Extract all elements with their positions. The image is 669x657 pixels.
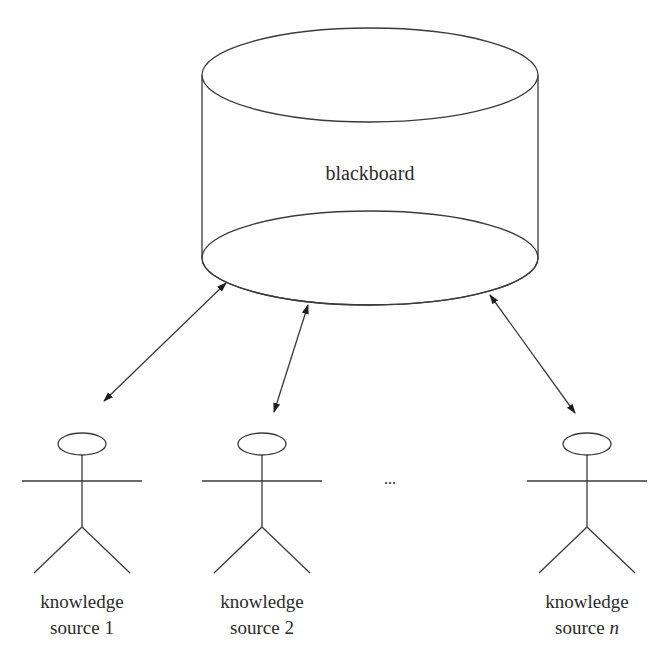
- knowledge-source-n: knowledge source n: [527, 433, 647, 638]
- ellipsis: ...: [384, 470, 396, 487]
- knowledge-source-label-line2: source 1: [50, 617, 114, 638]
- knowledge-source-label-line2: source n: [555, 617, 619, 638]
- knowledge-source-label-line1: knowledge: [40, 591, 123, 612]
- knowledge-source-1: knowledge source 1: [22, 433, 142, 638]
- knowledge-source-label-line1: knowledge: [220, 591, 303, 612]
- knowledge-source-label-line2: source 2: [230, 617, 294, 638]
- knowledge-source-label-line1: knowledge: [545, 591, 628, 612]
- stick-figure-icon: [527, 433, 647, 573]
- blackboard-architecture-diagram: blackboard knowledge source 1 knowledge …: [0, 0, 669, 657]
- arrow-blackboard-source-1: [104, 283, 226, 401]
- stick-figure-icon: [202, 433, 322, 573]
- arrow-blackboard-source-n: [490, 295, 575, 413]
- knowledge-source-2: knowledge source 2: [202, 433, 322, 638]
- blackboard-label: blackboard: [326, 162, 415, 184]
- stick-figure-icon: [22, 433, 142, 573]
- cylinder-top-ellipse: [202, 28, 538, 122]
- arrow-blackboard-source-2: [274, 305, 308, 412]
- blackboard-cylinder: blackboard: [202, 28, 538, 305]
